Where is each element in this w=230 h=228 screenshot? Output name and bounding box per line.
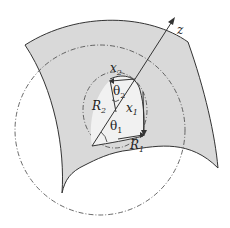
z-axis-arrowhead	[168, 17, 175, 25]
diagram-canvas: z x2 θ2 R2 x1 θ1 R1	[0, 0, 230, 228]
diagram-svg: z x2 θ2 R2 x1 θ1 R1	[0, 0, 230, 228]
z-axis-label: z	[176, 23, 184, 37]
